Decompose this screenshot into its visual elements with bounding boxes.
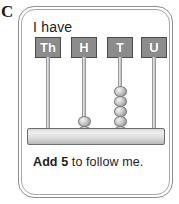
abacus: Th H T U [21,37,170,145]
abacus-rod-u [152,57,156,137]
item-letter: C [1,1,17,23]
column-label-u: U [141,37,167,58]
prompt-i-have: I have [33,19,72,35]
abacus-base-bar [27,128,165,145]
instruction-line: Add 5 to follow me. [33,155,143,169]
instruction-rest: to follow me. [68,155,143,169]
instruction-bold: Add 5 [33,155,68,169]
column-label-th: Th [35,37,61,58]
column-label-t: T [107,37,133,58]
column-label-h: H [71,37,97,58]
worksheet-card-stage: C I have Th H T U [0,0,179,204]
card-content: I have Th H T U [21,9,170,195]
abacus-rod-th [46,57,50,137]
